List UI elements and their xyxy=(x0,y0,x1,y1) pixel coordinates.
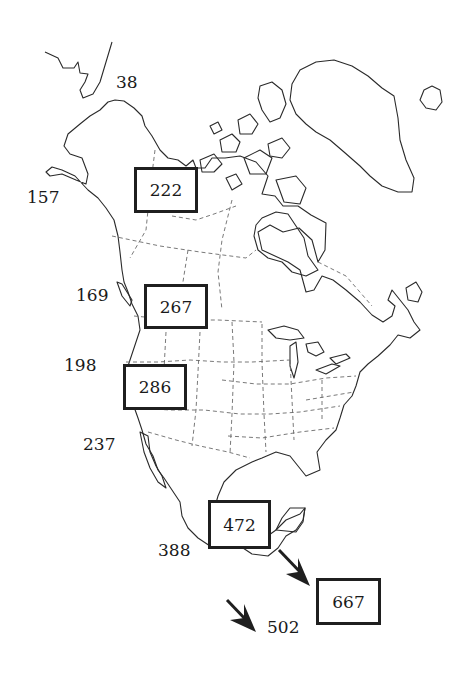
value-label-northern-california: 198 xyxy=(64,357,96,374)
newfoundland xyxy=(406,282,422,302)
value-box-text: 472 xyxy=(223,515,255,535)
greenland xyxy=(290,60,414,192)
value-box-text: 667 xyxy=(332,592,364,612)
value-label-southern-california: 237 xyxy=(83,436,115,453)
north-america-map xyxy=(0,0,465,677)
continent-coast xyxy=(46,100,420,556)
chukotka-coast xyxy=(45,42,112,98)
value-box-interior-northwest: 267 xyxy=(144,284,208,329)
hudson-bay xyxy=(254,212,318,276)
arrow-to-502 xyxy=(227,600,256,632)
value-box-text: 267 xyxy=(160,297,192,317)
value-box-alaska-yukon: 222 xyxy=(134,167,198,213)
iceland xyxy=(420,86,442,110)
value-label-pacific-mexico: 388 xyxy=(158,542,190,559)
vancouver-island xyxy=(117,282,132,306)
value-label-bering: 38 xyxy=(116,74,138,91)
yucatan xyxy=(276,508,305,532)
value-box-text: 286 xyxy=(139,377,171,397)
arrow-to-central-america xyxy=(279,550,310,586)
value-box-central-america: 667 xyxy=(316,578,381,625)
value-label-pacific-northwest: 169 xyxy=(76,287,108,304)
value-label-gulf-of-alaska: 157 xyxy=(27,189,59,206)
value-label-pacific-central-america: 502 xyxy=(267,619,299,636)
value-box-great-basin: 286 xyxy=(123,364,187,410)
baja-california xyxy=(140,432,166,488)
value-box-text: 222 xyxy=(150,180,182,200)
great-lakes xyxy=(268,326,350,378)
value-box-mexico: 472 xyxy=(208,500,271,549)
